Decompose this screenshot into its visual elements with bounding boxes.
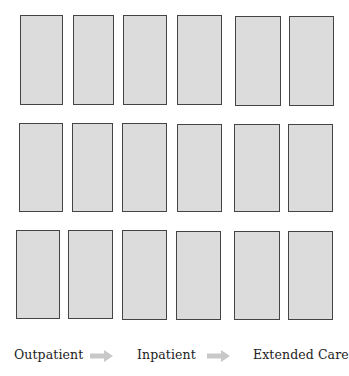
card-r2-c6 xyxy=(288,124,333,212)
card-r1-c5 xyxy=(235,16,281,106)
card-r3-c4 xyxy=(176,231,221,320)
card-r2-c4 xyxy=(177,124,222,212)
arrow-right-icon xyxy=(207,350,230,362)
card-r2-c1 xyxy=(19,123,63,212)
card-r2-c3 xyxy=(122,123,167,212)
stage-label-inpatient: Inpatient xyxy=(137,347,196,362)
card-r3-c1 xyxy=(16,230,60,319)
card-r1-c2 xyxy=(73,15,114,105)
card-r3-c6 xyxy=(288,231,333,320)
card-r2-c5 xyxy=(234,124,280,212)
stage-label-extended-care: Extended Care xyxy=(253,347,349,362)
card-r1-c4 xyxy=(177,15,222,105)
stage-label-outpatient: Outpatient xyxy=(14,347,83,362)
card-r3-c3 xyxy=(122,230,167,320)
arrow-right-icon xyxy=(90,350,113,362)
card-r1-c1 xyxy=(20,15,63,105)
card-r3-c5 xyxy=(234,231,280,320)
card-r3-c2 xyxy=(68,230,113,319)
card-r1-c6 xyxy=(289,16,334,106)
card-r2-c2 xyxy=(72,123,113,212)
card-r1-c3 xyxy=(123,15,167,105)
